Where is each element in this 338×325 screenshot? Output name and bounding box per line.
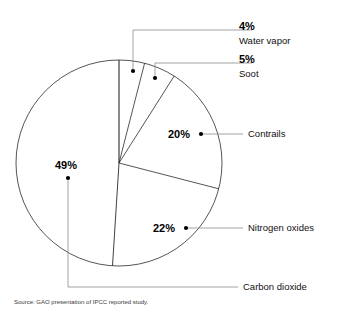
value-label-water-vapor: 4% <box>239 20 255 32</box>
value-label-nitrogen-oxides: 22% <box>153 222 175 234</box>
marker-dot-contrails <box>199 132 203 136</box>
marker-dot-nitrogen-oxides <box>184 226 188 230</box>
value-label-soot: 5% <box>239 53 255 65</box>
value-label-carbon-dioxide: 49% <box>55 159 77 171</box>
category-label-carbon-dioxide: Carbon dioxide <box>243 281 307 292</box>
category-label-water-vapor: Water vapor <box>239 35 290 46</box>
marker-dot-water-vapor <box>131 69 135 73</box>
value-label-contrails: 20% <box>168 128 190 140</box>
source-note: Source: GAO presentation of IPCC reporte… <box>14 299 148 305</box>
pie-chart-graphic <box>0 0 338 325</box>
marker-dot-carbon-dioxide <box>66 176 70 180</box>
category-label-nitrogen-oxides: Nitrogen oxides <box>248 222 314 233</box>
pie-chart-figure: 4% 5% 20% 22% 49% Water vapor Soot Contr… <box>0 0 338 325</box>
category-label-soot: Soot <box>239 68 259 79</box>
category-label-contrails: Contrails <box>248 128 286 139</box>
marker-dot-soot <box>153 76 157 80</box>
